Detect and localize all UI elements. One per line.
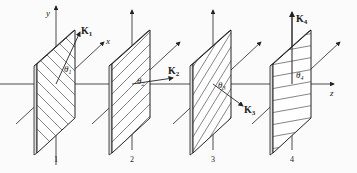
plate-1: y x K1 θ1 1 [16,0,110,173]
z-axis-label: z [329,88,334,98]
plate-3: K3 θ3 3 [173,0,261,173]
diagram-canvas: z y x K1 θ1 1 [0,0,357,173]
k3-label: K3 [244,104,256,117]
y-axis-label: y [45,8,50,18]
k2-label: K2 [168,65,180,78]
plate-2: K2 θ2 2 [92,10,180,173]
polarizer-diagram: z y x K1 θ1 1 [0,0,357,173]
plate-3-number: 3 [211,155,215,164]
k1-label: K1 [81,25,93,38]
plate-4: K4 θ4 4 [252,12,340,164]
plate-1-number: 1 [54,155,58,164]
plate-4-number: 4 [290,155,294,164]
x-axis-label: x [105,36,110,46]
k4-label: K4 [296,13,308,26]
plate-2-number: 2 [130,155,134,164]
